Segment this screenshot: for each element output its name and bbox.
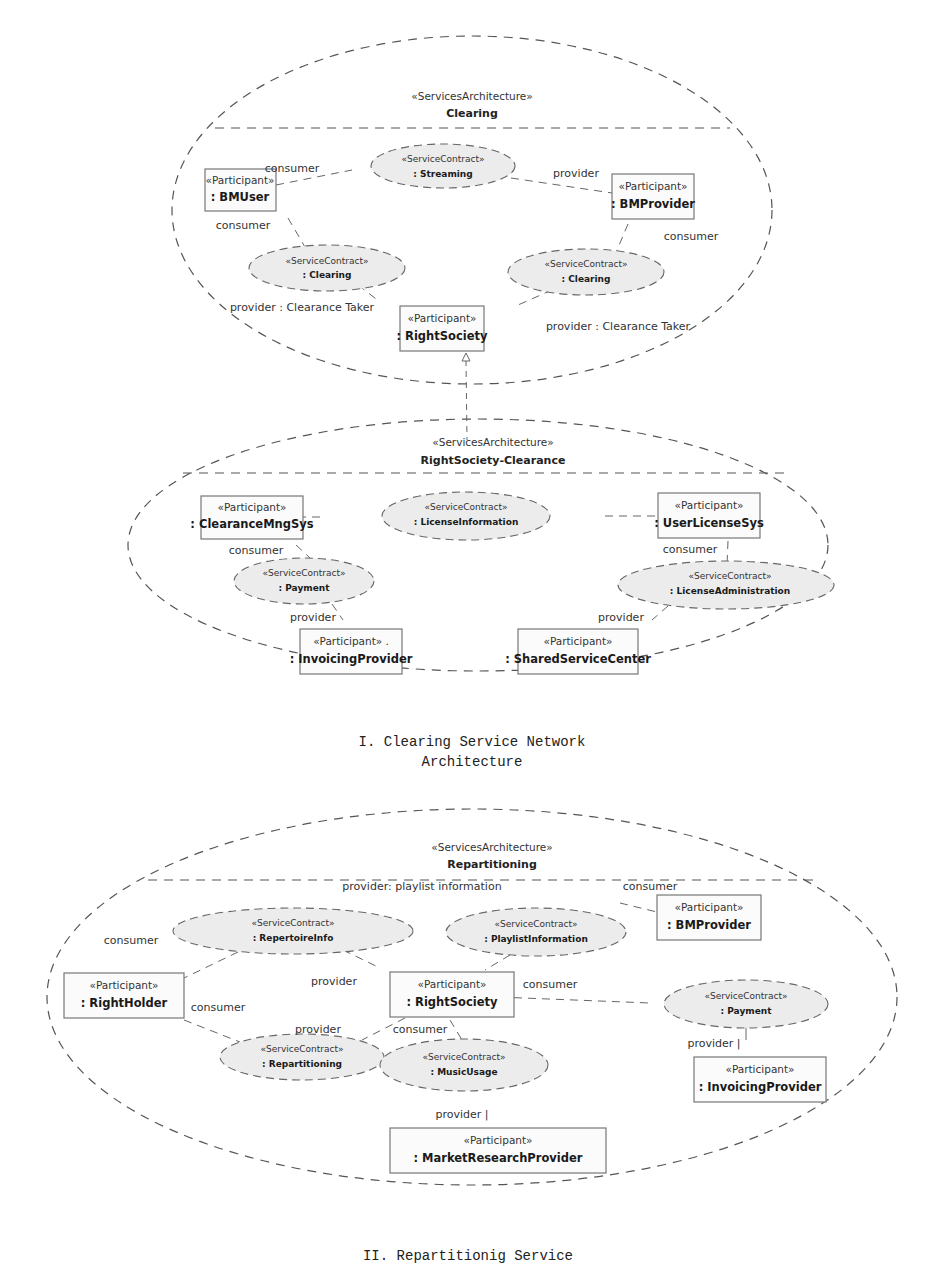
role-label: consumer [229,544,284,557]
role-label: provider [598,611,644,624]
participant-stereotype: «Participant» [674,499,743,511]
architecture-name: Repartitioning [447,858,537,871]
participant-stereotype: «Participant» [407,312,476,324]
participant-name: : UserLicenseSys [654,516,764,530]
service-contract-repertoireinfo[interactable]: «ServiceContract» : RepertoireInfo [173,908,413,954]
participant-sharedservicecenter[interactable]: «Participant» : SharedServiceCenter [505,629,651,674]
participant-name: : MarketResearchProvider [414,1151,583,1165]
role-label: consumer [393,1023,448,1036]
participant-name: : BMUser [211,190,270,204]
connector [343,950,380,968]
figure-caption-1-line-1: I. Clearing Service Network [359,734,586,750]
participant-rightsociety[interactable]: «Participant» : RightSociety [396,306,488,351]
connector [184,1020,240,1042]
contract-stereotype: «ServiceContract» [286,256,369,266]
service-contract-licenseinformation[interactable]: «ServiceContract» : LicenseInformation [382,492,550,540]
role-label: consumer [191,1001,246,1014]
connector [184,952,238,978]
service-contract-licenseadministration[interactable]: «ServiceContract» : LicenseAdministratio… [618,561,834,609]
participant-stereotype: «Participant» . [313,635,389,647]
contract-stereotype: «ServiceContract» [402,154,485,164]
contract-name: : Payment [279,583,331,593]
service-contract-clearing-left[interactable]: «ServiceContract» : Clearing [249,245,405,291]
contract-stereotype: «ServiceContract» [705,991,788,1001]
contract-stereotype: «ServiceContract» [495,919,578,929]
connector [296,545,310,558]
service-contract-playlistinformation[interactable]: «ServiceContract» : PlaylistInformation [446,908,626,956]
architecture-stereotype: «ServicesArchitecture» [432,436,553,448]
contract-name: : LicenseInformation [414,517,519,527]
participant-stereotype: «Participant» [89,979,158,991]
participant-invoicingprovider[interactable]: «Participant» : InvoicingProvider [694,1057,826,1102]
participant-name: : SharedServiceCenter [505,652,651,666]
participant-rightsociety[interactable]: «Participant» : RightSociety [390,972,514,1017]
role-label: provider : Clearance Taker [230,301,375,314]
connector [450,1020,462,1040]
role-label: provider [290,611,336,624]
contract-name: : Streaming [413,169,472,179]
contract-name: : MusicUsage [430,1067,497,1077]
contract-name: : RepertoireInfo [253,933,334,943]
contract-stereotype: «ServiceContract» [263,568,346,578]
contract-name: : Clearing [303,270,352,280]
service-contract-streaming[interactable]: «ServiceContract» : Streaming [371,144,515,188]
role-label: consumer [523,978,578,991]
contract-stereotype: «ServiceContract» [689,571,772,581]
contract-stereotype: «ServiceContract» [545,259,628,269]
service-contract-payment[interactable]: «ServiceContract» : Payment [664,980,828,1028]
role-label: provider | [687,1037,740,1050]
participant-rightholder[interactable]: «Participant» : RightHolder [64,973,184,1018]
role-label: provider : Clearance Taker [546,320,691,333]
participant-name: : RightSociety [406,995,498,1009]
figure-caption-1-line-2: Architecture [422,754,523,770]
connector [620,903,657,912]
participant-invoicingprovider[interactable]: «Participant» . : InvoicingProvider [290,629,413,674]
contract-name: : Repartitioning [262,1059,342,1069]
participant-name: : RightHolder [81,996,168,1010]
role-label: provider | [435,1108,488,1121]
participant-stereotype: «Participant» [618,180,687,192]
role-label: provider [553,167,599,180]
contract-stereotype: «ServiceContract» [425,502,508,512]
participant-name: : InvoicingProvider [699,1080,822,1094]
role-label: consumer [664,230,719,243]
participant-bmprovider[interactable]: «Participant» : BMProvider [657,895,761,940]
role-label: consumer [265,162,320,175]
connector [485,955,510,970]
service-contract-payment[interactable]: «ServiceContract» : Payment [234,558,374,604]
service-contract-repartitioning[interactable]: «ServiceContract» : Repartitioning [220,1034,384,1080]
connector [288,218,305,247]
participant-bmprovider[interactable]: «Participant» : BMProvider [611,174,695,219]
architecture-name: Clearing [446,107,498,120]
participant-clearancemngsys[interactable]: «Participant» : ClearanceMngSys [190,496,313,539]
contract-stereotype: «ServiceContract» [423,1052,506,1062]
participant-stereotype: «Participant» [463,1134,532,1146]
participant-userlicensesys[interactable]: «Participant» : UserLicenseSys [654,493,764,538]
participant-bmuser[interactable]: «Participant» : BMUser [205,169,276,211]
participant-stereotype: «Participant» [543,635,612,647]
generalization-arrow [462,353,470,440]
participant-marketresearchprovider[interactable]: «Participant» : MarketResearchProvider [390,1128,606,1173]
role-label: provider [295,1023,341,1036]
participant-stereotype: «Participant» [725,1063,794,1075]
connector [511,178,612,193]
role-label: consumer [663,543,718,556]
role-label: provider: playlist information [342,880,501,893]
service-contract-clearing-right[interactable]: «ServiceContract» : Clearing [508,249,664,295]
architecture-stereotype: «ServicesArchitecture» [431,841,552,853]
role-label: consumer [623,880,678,893]
role-label: provider [311,975,357,988]
participant-name: : BMProvider [667,918,751,932]
services-architecture-repartitioning: «ServicesArchitecture» Repartitioning «P… [47,809,897,1185]
service-contract-musicusage[interactable]: «ServiceContract» : MusicUsage [380,1039,548,1091]
participant-name: : RightSociety [396,329,488,343]
services-architecture-rightsociety-clearance: «ServicesArchitecture» RightSociety-Clea… [128,419,834,674]
participant-stereotype: «Participant» [205,174,274,186]
diagram-canvas: «ServicesArchitecture» Clearing «Partici… [0,0,944,1264]
participant-name: : ClearanceMngSys [190,517,313,531]
contract-name: : Payment [721,1006,773,1016]
contract-stereotype: «ServiceContract» [261,1044,344,1054]
role-label: consumer [216,219,271,232]
contract-name: : Clearing [562,274,611,284]
architecture-stereotype: «ServicesArchitecture» [411,90,532,102]
